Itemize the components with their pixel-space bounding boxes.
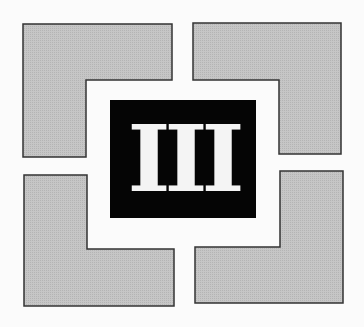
numeral-text: III <box>127 113 238 205</box>
roman-numeral-three: III <box>110 100 256 218</box>
